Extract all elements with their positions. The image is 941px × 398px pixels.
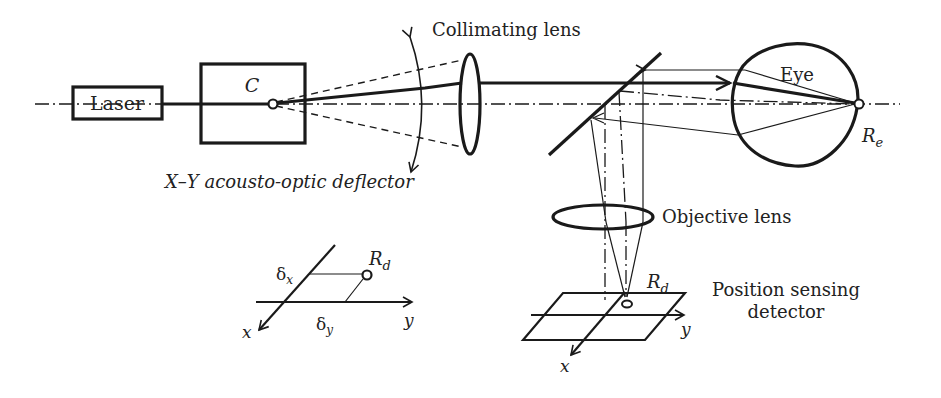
inset-delta-x-label: δx: [276, 264, 293, 287]
deflection-point-icon: [269, 100, 278, 109]
return-ray-lower: [595, 118, 738, 135]
inset-spot-label: Rd: [368, 248, 391, 273]
detector-x-label: x: [560, 356, 570, 376]
laser-source: Laser: [73, 87, 162, 119]
inset-y-label: y: [403, 310, 414, 330]
detector-x-axis: [571, 292, 625, 355]
retina-point-label: Re: [861, 125, 884, 150]
inset-coordinate-diagram: Rd δx δy y x: [242, 245, 414, 342]
detector-spot-icon: [622, 301, 632, 308]
collimating-lens-label: Collimating lens: [432, 19, 581, 40]
inset-spot-icon: [363, 271, 372, 280]
ray-converge-right: [627, 222, 643, 297]
objective-lens: [553, 205, 653, 229]
return-ray-lower-eye: [738, 104, 855, 135]
ray-converge-left: [606, 222, 625, 297]
eye: Eye Re: [732, 44, 883, 166]
laser-label: Laser: [90, 92, 145, 114]
inset-x-label: x: [242, 322, 252, 342]
detector-y-label: y: [680, 319, 691, 339]
detector-label-line2: detector: [748, 301, 825, 322]
eye-outline: [732, 44, 858, 166]
objective-lens-label: Objective lens: [662, 206, 791, 227]
inset-delta-y-line: [345, 279, 363, 302]
deflector-box-label: C: [245, 74, 260, 96]
eye-tracking-optical-diagram: Laser C X–Y acousto-optic deflector Coll…: [0, 0, 941, 398]
inset-delta-y-label: δy: [316, 314, 333, 337]
retina-point-icon: [855, 100, 864, 109]
axis-down-2: [619, 92, 626, 222]
detector-label-line1: Position sensing: [712, 279, 860, 300]
main-beam-in-eye: [733, 83, 855, 103]
deflector-caption: X–Y acousto-optic deflector: [163, 171, 415, 192]
eye-label: Eye: [780, 64, 814, 85]
position-sensing-detector: Rd y x: [523, 271, 691, 376]
